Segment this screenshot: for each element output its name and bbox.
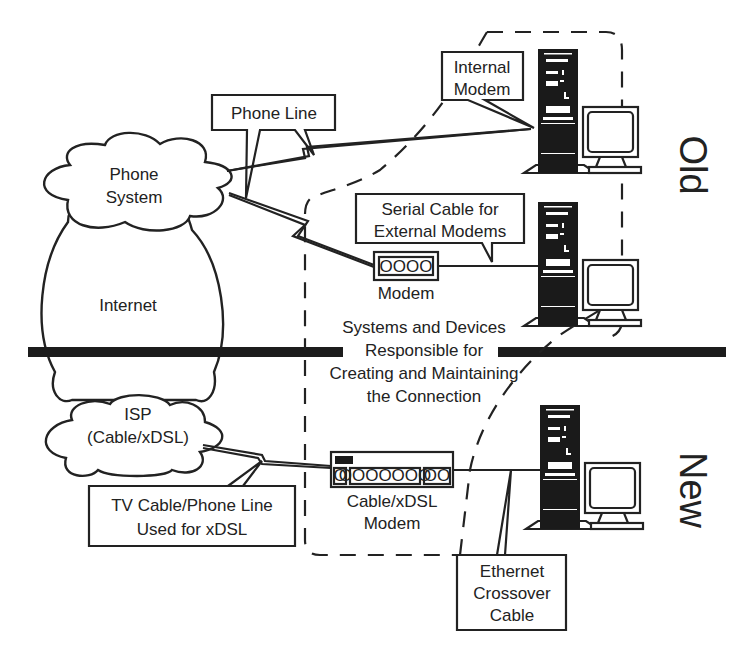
region-label-line1: Systems and Devices [342, 318, 505, 337]
isp-label-line1: ISP [124, 405, 151, 424]
internal-modem-label-line1: Internal [454, 58, 511, 77]
ethernet-label-line2: Crossover [473, 584, 551, 603]
cable-modem-port-2: OOOOOOO [339, 466, 432, 485]
region-label-line2: Responsible for [365, 341, 483, 360]
internet-label: Internet [99, 296, 157, 315]
tv-cable-label-line1: TV Cable/Phone Line [111, 496, 273, 515]
external-modem: OOOO Modem [374, 252, 438, 303]
ethernet-label-line3: Cable [490, 606, 534, 625]
isp-label-line2: (Cable/xDSL) [87, 428, 189, 447]
era-label-new: New [672, 452, 714, 529]
era-label-old: Old [672, 135, 714, 194]
ethernet-label-line1: Ethernet [480, 562, 545, 581]
external-modem-ports: OOOO [380, 257, 433, 276]
old-computer-internal-modem [524, 49, 641, 173]
old-computer-external-modem [524, 202, 641, 326]
phone-system-label-line2: System [106, 188, 163, 207]
phone-line-label: Phone Line [231, 104, 317, 123]
internal-modem-callout: Internal Modem [442, 52, 534, 128]
region-label-line4: the Connection [367, 387, 481, 406]
cable-line-to-cable-modem [203, 445, 331, 466]
tv-cable-label-line2: Used for xDSL [137, 520, 248, 539]
cable-modem-port-3: OO [424, 466, 450, 485]
region-label-line3: Creating and Maintaining [329, 364, 518, 383]
external-modem-label: Modem [378, 284, 435, 303]
phone-system-label-line1: Phone [109, 165, 158, 184]
network-connection-diagram: Internet Phone System ISP (Cable/xDSL) P… [0, 0, 749, 660]
new-computer-cable-modem [526, 405, 643, 529]
phone-line-to-internal-modem-2 [227, 129, 531, 171]
internal-modem-label-line2: Modem [454, 80, 511, 99]
cable-modem-label-line1: Cable/xDSL [347, 492, 438, 511]
serial-cable-label-line1: Serial Cable for [381, 200, 499, 219]
old-new-divider-right [498, 347, 726, 357]
serial-cable-label-line2: External Modems [374, 222, 506, 241]
region-description: Systems and Devices Responsible for Crea… [329, 318, 518, 406]
old-new-divider-left [28, 347, 343, 357]
cable-xdsl-modem: O OOOOOOO OO Cable/xDSL Modem [331, 452, 453, 533]
phone-line-to-internal-modem [227, 129, 531, 171]
cable-modem-label-line2: Modem [364, 514, 421, 533]
